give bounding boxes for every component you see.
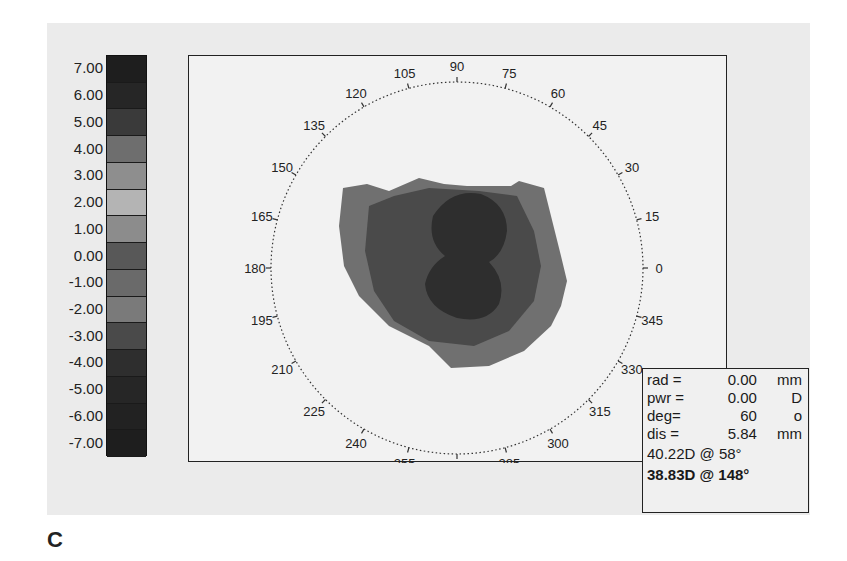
color-scale-swatch (107, 323, 146, 350)
color-scale-swatch (107, 109, 146, 136)
polar-tick (618, 173, 622, 176)
polar-tick (408, 448, 409, 453)
color-scale-tick-label: -3.00 (69, 328, 103, 344)
polar-tick (362, 429, 365, 433)
color-scale-tick-label: 7.00 (74, 60, 103, 76)
color-scale-swatch (107, 270, 146, 297)
readout-unit: o (757, 407, 804, 425)
polar-angle-label: 30 (625, 160, 639, 175)
color-scale-swatch (107, 136, 146, 163)
readout-value: 5.84 (698, 425, 757, 443)
color-scale-tick-label: -5.00 (69, 381, 103, 397)
readout-row-dis: dis = 5.84 mm (647, 425, 804, 443)
color-scale-tick-label: 4.00 (74, 141, 103, 157)
readout-unit: D (757, 389, 804, 407)
polar-tick (505, 84, 506, 89)
polar-angle-label: 90 (450, 59, 464, 74)
color-scale-tick-label: 6.00 (74, 87, 103, 103)
figure-label: C (47, 527, 63, 553)
polar-angle-label: 135 (303, 118, 325, 133)
polar-tick (589, 400, 593, 404)
polar-tick (408, 84, 409, 89)
color-scale-swatch (107, 216, 146, 243)
readout-key: pwr = (647, 389, 698, 407)
polar-tick (637, 219, 642, 220)
color-scale-tick-label: 1.00 (74, 221, 103, 237)
polar-angle-label: 75 (502, 66, 516, 81)
polar-angle-label: 345 (641, 313, 663, 328)
polar-tick (362, 103, 365, 107)
polar-angle-label: 150 (271, 160, 293, 175)
polar-angle-label: 15 (645, 209, 659, 224)
readout-value: 0.00 (698, 389, 757, 407)
readout-row-pwr: pwr = 0.00 D (647, 389, 804, 407)
color-scale-tick-label: -1.00 (69, 274, 103, 290)
readout-key: dis = (647, 425, 698, 443)
color-scale-tick-label: -7.00 (69, 435, 103, 451)
color-scale-swatch (107, 83, 146, 110)
color-scale-tick-label: 0.00 (74, 248, 103, 264)
polar-angle-label: 315 (589, 404, 611, 419)
color-scale-swatch (107, 190, 146, 217)
polar-angle-label: 225 (303, 404, 325, 419)
steep-k-readout: 40.22D @ 58° (647, 443, 804, 464)
readout-row-rad: rad = 0.00 mm (647, 371, 804, 389)
polar-tick (505, 448, 506, 453)
color-scale-swatch (107, 297, 146, 324)
polar-angle-label: 195 (251, 313, 273, 328)
color-scale-tick-label: 2.00 (74, 194, 103, 210)
polar-angle-label: 210 (271, 362, 293, 377)
polar-tick (322, 400, 326, 404)
polar-angle-label: 0 (655, 261, 662, 276)
flat-k-readout: 38.83D @ 148° (647, 464, 804, 485)
polar-tick (550, 103, 553, 107)
color-scale-tick-label: -6.00 (69, 408, 103, 424)
polar-angle-label: 300 (547, 436, 569, 451)
color-scale-swatch (107, 430, 146, 457)
readout-value: 0.00 (698, 371, 757, 389)
readout-key: rad = (647, 371, 698, 389)
polar-angle-label: 330 (621, 362, 643, 377)
polar-tick (550, 429, 553, 433)
readout-value: 60 (698, 407, 757, 425)
color-scale-tick-label: 5.00 (74, 114, 103, 130)
color-scale-swatch (107, 404, 146, 431)
polar-angle-label: 255 (394, 456, 416, 463)
color-scale-swatch (107, 350, 146, 377)
polar-angle-label: 240 (345, 436, 367, 451)
color-scale-tick-label: -4.00 (69, 354, 103, 370)
polar-angle-label: 45 (593, 118, 607, 133)
color-scale-swatch (107, 377, 146, 404)
polar-tick (273, 316, 278, 317)
polar-tick (589, 133, 593, 137)
color-scale-swatch (107, 243, 146, 270)
polar-tick (273, 219, 278, 220)
polar-angle-label: 105 (394, 66, 416, 81)
polar-tick (322, 133, 326, 137)
readout-box: rad = 0.00 mm pwr = 0.00 D deg= 60 o dis… (642, 368, 809, 513)
color-scale-swatch (107, 56, 146, 83)
color-scale-swatch (107, 163, 146, 190)
readout-row-deg: deg= 60 o (647, 407, 804, 425)
color-scale-bar (106, 55, 147, 456)
polar-angle-label: 120 (345, 86, 367, 101)
polar-angle-label: 60 (551, 86, 565, 101)
polar-angle-label: 285 (498, 456, 520, 463)
polar-angle-label: 165 (251, 209, 273, 224)
readout-unit: mm (757, 371, 804, 389)
polar-angle-label: 180 (244, 261, 266, 276)
readout-key: deg= (647, 407, 698, 425)
color-scale-tick-label: -2.00 (69, 301, 103, 317)
color-scale-tick-label: 3.00 (74, 167, 103, 183)
readout-unit: mm (757, 425, 804, 443)
